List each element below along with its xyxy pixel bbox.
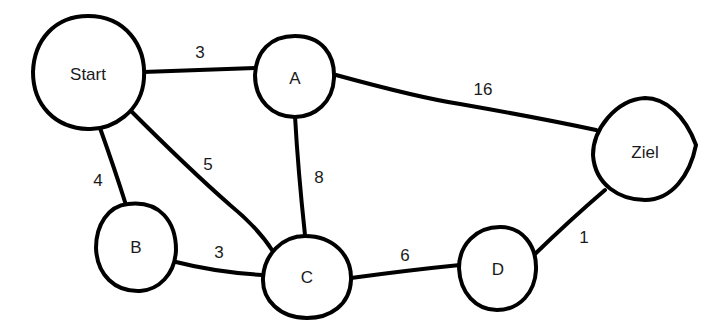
weight-a-ziel: 16 (474, 80, 493, 99)
edge-a-ziel (336, 75, 596, 130)
node-label-d: D (492, 260, 504, 279)
node-label-b: B (130, 238, 141, 257)
node-label-start: Start (70, 65, 106, 84)
weight-start-c: 5 (203, 155, 212, 174)
node-label-a: A (289, 69, 301, 88)
node-label-ziel: Ziel (631, 143, 658, 162)
node-b: B (96, 204, 176, 292)
node-label-c: C (301, 268, 313, 287)
edge-b-c (176, 262, 262, 275)
graph-diagram: Start A Ziel B C D 3 4 5 8 16 3 6 1 (0, 0, 728, 334)
node-ziel: Ziel (593, 98, 696, 200)
edge-c-d (351, 265, 460, 278)
graph-svg: Start A Ziel B C D 3 4 5 8 16 3 6 1 (0, 0, 728, 334)
weight-start-b: 4 (93, 171, 102, 190)
edge-a-c (295, 116, 305, 235)
node-c: C (263, 236, 351, 318)
weight-d-ziel: 1 (579, 228, 588, 247)
weight-start-a: 3 (195, 43, 204, 62)
weight-b-c: 3 (214, 243, 223, 262)
weight-c-d: 6 (400, 246, 409, 265)
weight-a-c: 8 (314, 168, 323, 187)
edge-start-b (100, 128, 126, 205)
node-start: Start (33, 16, 144, 129)
node-a: A (255, 36, 334, 117)
edge-start-a (143, 68, 255, 72)
node-d: D (459, 227, 536, 310)
edge-d-ziel (535, 190, 605, 254)
